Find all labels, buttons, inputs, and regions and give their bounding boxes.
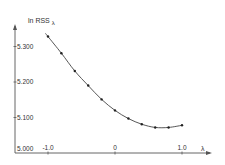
y-tick-label: 5.200 — [17, 78, 34, 85]
x-tick-label: 0 — [113, 144, 117, 151]
x-tick-label: -1.0 — [42, 144, 54, 151]
y-axis-title: ln RSSλ — [28, 17, 55, 26]
data-point-marker — [47, 35, 49, 37]
x-axis-title: λ — [201, 145, 205, 152]
series-line — [45, 33, 182, 128]
y-tick-label: 5.100 — [17, 114, 34, 121]
y-axis-title-subscript: λ — [52, 20, 55, 26]
data-point-marker — [167, 126, 169, 128]
y-axis-arrow-icon — [13, 24, 17, 30]
data-point-marker — [141, 123, 143, 125]
data-series — [45, 33, 183, 128]
y-tick-label: 5.000 — [17, 145, 34, 152]
axes: 5.0005.1005.2005.300-1.001.0 — [13, 24, 212, 155]
axis-labels: ln RSSλ λ — [28, 17, 205, 152]
y-tick-label: 5.300 — [17, 43, 34, 50]
data-point-marker — [154, 126, 156, 128]
line-chart: 5.0005.1005.2005.300-1.001.0 ln RSSλ λ — [0, 0, 225, 165]
data-point-marker — [60, 52, 62, 54]
x-tick-label: 1.0 — [177, 144, 186, 151]
data-point-marker — [87, 84, 89, 86]
data-point-marker — [127, 117, 129, 119]
data-point-marker — [74, 70, 76, 72]
data-point-marker — [114, 109, 116, 111]
x-axis-arrow-icon — [206, 151, 212, 155]
data-point-marker — [181, 124, 183, 126]
data-point-marker — [100, 98, 102, 100]
